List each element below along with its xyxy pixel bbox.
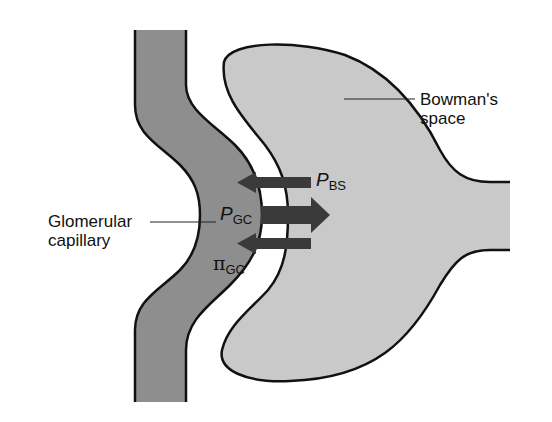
pi-gc-symbol: π [213, 252, 226, 274]
p-bs-symbol: P [316, 169, 329, 190]
label-p-gc: PGC [220, 204, 252, 230]
bowmans-label-line1: Bowman's [420, 90, 498, 109]
p-gc-subscript: GC [233, 212, 253, 227]
label-p-bs: PBS [316, 170, 346, 196]
capillary-label-line2: capillary [48, 231, 132, 250]
bowmans-label-line2: space [420, 109, 498, 128]
label-pi-gc: πGC [213, 253, 245, 280]
p-gc-symbol: P [220, 203, 233, 224]
filtration-diagram [0, 0, 552, 422]
bowmans-space-label: Bowman's space [420, 90, 498, 128]
pi-gc-subscript: GC [226, 262, 246, 277]
p-bs-subscript: BS [329, 178, 346, 193]
capillary-label-line1: Glomerular [48, 212, 132, 231]
glomerular-capillary-label: Glomerular capillary [48, 212, 132, 250]
